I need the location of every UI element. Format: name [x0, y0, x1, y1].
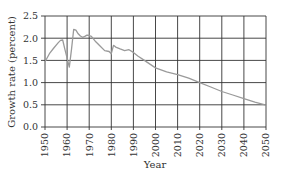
x-axis-label: Year — [143, 159, 167, 170]
y-tick-label: 1.5 — [23, 55, 38, 66]
y-tick-label: 0.5 — [23, 99, 38, 110]
x-tick-label: 2000 — [150, 133, 161, 157]
x-tick-label: 2040 — [238, 133, 249, 157]
y-tick-label: 2.5 — [23, 10, 38, 21]
x-tick-label: 1950 — [39, 133, 50, 157]
x-tick-label: 1970 — [84, 133, 95, 157]
x-tick-label: 2020 — [194, 133, 205, 157]
grid-lines — [41, 16, 266, 130]
x-tick-label: 1980 — [106, 133, 117, 157]
x-tick-label: 1960 — [61, 133, 72, 157]
y-tick-label: 0.0 — [23, 121, 38, 132]
x-axis-ticks: 1950196019701980199020002010202020302040… — [39, 133, 271, 157]
y-tick-label: 1.0 — [23, 77, 38, 88]
y-axis-label: Growth rate (percent) — [6, 16, 17, 128]
line-chart: 0.00.51.01.52.02.5 195019601970198019902… — [0, 0, 281, 177]
x-tick-label: 2010 — [172, 133, 183, 157]
y-axis-ticks: 0.00.51.01.52.02.5 — [23, 10, 38, 132]
x-tick-label: 2030 — [216, 133, 227, 157]
x-tick-label: 1990 — [128, 133, 139, 157]
y-tick-label: 2.0 — [23, 33, 38, 44]
x-tick-label: 2050 — [260, 133, 271, 157]
